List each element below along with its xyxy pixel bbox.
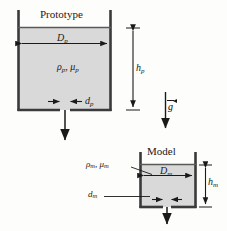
model-diameter-label: Dm (160, 166, 172, 178)
model-fluid-properties-label: ρm, μm (86, 160, 109, 170)
prototype-orifice-label: dp (85, 96, 94, 108)
prototype-title: Prototype (40, 9, 83, 20)
model-height-label: hm (208, 177, 218, 189)
model-title: Model (147, 146, 176, 157)
prototype-diameter-label: Dp (57, 33, 68, 45)
prototype-fluid-properties-label: ρp, μp (57, 62, 79, 74)
gravity-vector-overbar-arrowhead (173, 99, 177, 103)
similitude-diagram: Prototype Dp hp ρp, μp dp g Model Dm hm … (0, 0, 227, 231)
diagram-linework (0, 0, 227, 231)
model-orifice-label: dm (88, 190, 97, 200)
prototype-height-label: hp (136, 63, 145, 75)
